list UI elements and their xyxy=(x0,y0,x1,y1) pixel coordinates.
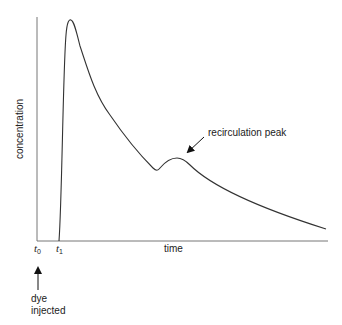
dye-injected-label-line2: injected xyxy=(31,305,65,317)
tick-t1: t1 xyxy=(56,242,63,256)
tick-t0: t0 xyxy=(34,242,41,256)
recirculation-arrow xyxy=(188,137,204,152)
tick-t1-sub: 1 xyxy=(59,248,63,255)
x-axis-label: time xyxy=(164,243,183,255)
y-axis-label: concentration xyxy=(14,99,25,159)
recirculation-peak-label: recirculation peak xyxy=(208,127,286,139)
chart-canvas xyxy=(0,0,342,325)
tick-t0-sub: 0 xyxy=(37,248,41,255)
dye-injected-label-line1: dye xyxy=(31,293,47,305)
